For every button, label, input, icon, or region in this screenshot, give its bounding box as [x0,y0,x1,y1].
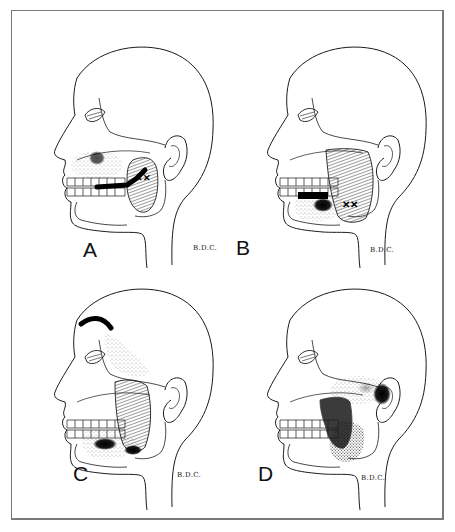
panel-c: C B.D.C. [15,262,230,512]
head-profile-illustration: ✕✕ [15,20,230,270]
panel-label: C [73,462,88,486]
trigger-point-marks: ✕✕ [342,199,358,210]
referred-pain-zone-teeth [298,192,328,199]
masseter-muscle [127,158,158,213]
panel-label: A [83,238,97,262]
panel-d: D B.D.C. [228,262,443,512]
referred-pain-haze [357,382,375,394]
panel-a: ✕✕ A B.D.C. [15,20,230,270]
referred-pain-zone-eyebrow [81,318,111,328]
referred-pain-spot-angle [124,445,142,455]
referred-pain-spot-jaw [93,438,117,450]
trigger-point-marks: ✕✕ [135,173,151,183]
head-profile-illustration: ✕✕ [228,20,443,270]
artist-signature: B.D.C. [193,244,217,252]
artist-signature: B.D.C. [361,474,385,482]
referred-pain-spot [89,151,105,165]
artist-signature: B.D.C. [370,246,394,254]
panel-b: ✕✕ B B.D.C. [228,20,443,270]
panel-label: D [258,462,273,486]
artist-signature: B.D.C. [177,471,201,479]
referred-pain-spot [313,198,333,212]
panel-label: B [236,236,250,260]
referred-pain-stipple-temple [104,332,150,377]
referred-pain-spot-ear [373,383,391,405]
